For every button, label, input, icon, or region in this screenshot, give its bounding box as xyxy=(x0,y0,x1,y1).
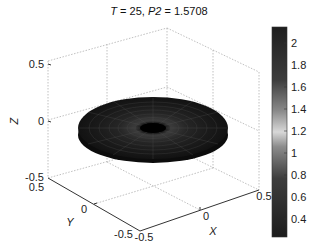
svg-text:0.8: 0.8 xyxy=(291,169,306,181)
z-axis: 0.5 0 -0.5 Z xyxy=(8,58,44,183)
svg-text:1: 1 xyxy=(291,147,297,159)
svg-text:0: 0 xyxy=(81,203,87,215)
svg-text:0: 0 xyxy=(203,210,209,222)
svg-text:0.5: 0.5 xyxy=(29,181,44,193)
figure: T = 25, P2 = 1.5708 xyxy=(0,0,318,251)
svg-text:2: 2 xyxy=(291,37,297,49)
svg-text:0.5: 0.5 xyxy=(29,58,44,70)
svg-text:0.4: 0.4 xyxy=(291,213,306,225)
svg-text:X: X xyxy=(208,225,217,237)
svg-text:-0.5: -0.5 xyxy=(135,231,154,243)
colorbar: 2 1.8 1.6 1.4 1.2 1 0.8 0.6 0.4 xyxy=(272,27,306,237)
svg-text:0.5: 0.5 xyxy=(256,190,271,202)
svg-text:Y: Y xyxy=(66,216,74,228)
svg-text:Z: Z xyxy=(8,116,20,125)
svg-text:1.8: 1.8 xyxy=(291,59,306,71)
y-axis: 0.5 0 -0.5 Y xyxy=(29,181,133,240)
svg-text:1.4: 1.4 xyxy=(291,103,306,115)
svg-text:0.6: 0.6 xyxy=(291,191,306,203)
x-axis: -0.5 0 0.5 X xyxy=(135,190,272,243)
svg-text:-0.5: -0.5 xyxy=(114,228,133,240)
svg-text:1.2: 1.2 xyxy=(291,125,306,137)
chart-title: T = 25, P2 = 1.5708 xyxy=(0,5,318,17)
svg-text:1.6: 1.6 xyxy=(291,81,306,93)
svg-text:0: 0 xyxy=(38,115,44,127)
surface-disk xyxy=(78,97,228,163)
